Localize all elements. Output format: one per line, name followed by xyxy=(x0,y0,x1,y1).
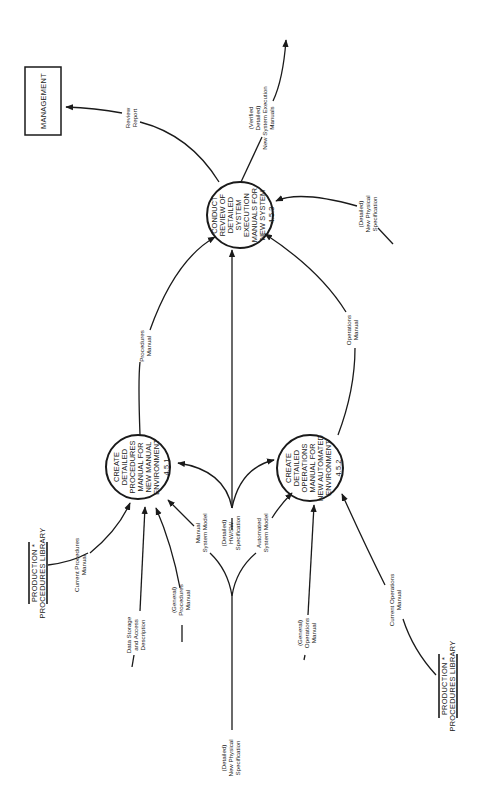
data-flow-diagram: MANAGEMENT PRODUCTION * PROCEDURES LIBRA… xyxy=(0,0,487,801)
flow-label: Description xyxy=(139,619,146,651)
flow-label: (Detailed) xyxy=(220,745,227,772)
flow-current-operations-manual[interactable]: Current Operations Manual xyxy=(342,494,436,675)
flow-label: New Physical xyxy=(227,739,234,776)
flow-label: HW/SW xyxy=(227,522,234,544)
p453-number: 4.5.3 xyxy=(267,207,276,224)
flow-current-procedures-manual[interactable]: Current Procedures Manual xyxy=(48,503,130,592)
flow-label: Data Storage xyxy=(125,616,132,653)
flow-new-physical-spec-453[interactable]: (Detailed) New Physical Specification xyxy=(276,195,393,244)
process-4-5-3[interactable]: CONDUCT REVIEW OF DETAILED SYSTEM EXECUT… xyxy=(207,182,276,248)
flow-label: New System Execution xyxy=(261,86,268,150)
flow-label: System Model xyxy=(262,513,269,552)
flow-label: Specification xyxy=(371,196,378,232)
library-bottom-line2: PROCEDURES LIBRARY xyxy=(448,640,457,731)
flow-label: System Model xyxy=(201,513,208,552)
flow-label: New Physical xyxy=(364,195,371,232)
flow-label: Current Operations xyxy=(388,574,395,627)
process-4-5-2[interactable]: CREATE DETAILED OPERATIONS MANUAL FOR NE… xyxy=(277,435,343,501)
flow-label: (General) xyxy=(296,620,303,646)
flow-verified-manuals[interactable]: (Verified Detailed) New System Execution… xyxy=(241,40,286,182)
flow-label: (Detailed) xyxy=(220,520,227,547)
flow-label: Manual xyxy=(310,623,317,643)
production-procedures-library-bottom[interactable]: PRODUCTION * PROCEDURES LIBRARY xyxy=(439,640,457,731)
flow-label: Manual xyxy=(184,590,191,610)
flow-label: Review xyxy=(124,107,131,128)
flow-label: Manual xyxy=(145,336,152,356)
flow-data-storage-description[interactable]: Data Storage and Access Description xyxy=(125,507,146,667)
flow-label: Procedures xyxy=(177,584,184,616)
flow-label: and Access xyxy=(132,619,139,651)
production-procedures-library-top[interactable]: PRODUCTION * PROCEDURES LIBRARY xyxy=(29,527,47,618)
p452-number: 4.5.2 xyxy=(334,460,343,477)
flow-label: Manual xyxy=(194,523,201,543)
p451-line: ENVIRONMENT xyxy=(152,439,161,495)
flow-label: Report xyxy=(131,108,138,127)
flow-new-physical-spec-bottom[interactable]: (Detailed) New Physical Specification xyxy=(210,553,256,777)
flow-label: Manual xyxy=(395,590,402,610)
flow-label: Specification xyxy=(234,740,241,776)
p453-line: NEW SYSTEM xyxy=(258,190,267,241)
flow-label: Current Procedures xyxy=(73,538,80,592)
flow-label: Operations xyxy=(303,618,310,648)
flow-procedures-manual[interactable]: Procedures Manual xyxy=(138,237,215,435)
flow-label: Operations xyxy=(345,315,352,345)
flow-operations-manual[interactable]: Operations Manual xyxy=(265,234,359,435)
flow-automated-system-model[interactable]: Automated System Model xyxy=(255,493,292,553)
flow-label: Manual xyxy=(352,320,359,340)
flow-review-report[interactable]: Review Report xyxy=(66,107,219,182)
flow-general-procedures-manual[interactable]: (General) Procedures Manual xyxy=(156,508,191,642)
flow-label: (General) xyxy=(170,587,177,613)
flow-label: (Detailed) xyxy=(357,201,364,228)
flow-label: Specification xyxy=(234,515,241,551)
management-label: MANAGEMENT xyxy=(39,73,48,129)
flow-general-operations-manual[interactable]: (General) Operations Manual xyxy=(296,505,317,660)
flow-label: Procedures xyxy=(138,330,145,362)
flow-label: Manuals xyxy=(268,106,275,129)
flow-manual-system-model[interactable]: Manual System Model xyxy=(168,500,208,553)
p452-line: ENVIRONMENT xyxy=(324,440,333,496)
management-entity[interactable]: MANAGEMENT xyxy=(25,67,61,135)
flow-label: Automated xyxy=(255,517,262,547)
p451-number: 4.5.1 xyxy=(162,459,171,476)
flow-label: Manual xyxy=(80,555,87,575)
flow-hw-sw-specification[interactable]: (Detailed) HW/SW Specification xyxy=(178,250,274,551)
process-4-5-1[interactable]: CREATE DETAILED PROCEDURES MANUAL FOR NE… xyxy=(106,435,171,499)
flow-label: Detailed) xyxy=(254,106,261,131)
library-top-line2: PROCEDURES LIBRARY xyxy=(38,527,47,618)
flow-label: (Verified xyxy=(247,106,254,129)
